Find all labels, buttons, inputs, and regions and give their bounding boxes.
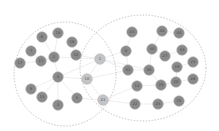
- node-16[interactable]: 16: [67, 37, 78, 48]
- node-label: 18: [56, 30, 61, 35]
- node-label: 14: [135, 83, 140, 88]
- node-label: 24: [130, 29, 135, 34]
- node-label: 15: [177, 98, 182, 103]
- edge: [87, 70, 128, 79]
- node-14[interactable]: 14: [132, 81, 143, 92]
- node-label: 30: [150, 46, 155, 51]
- node-23[interactable]: 23: [188, 57, 199, 68]
- node-7[interactable]: 7: [26, 46, 37, 57]
- nodes-layer: 6181671121217391345101212432348302733312…: [15, 26, 199, 111]
- edge: [58, 59, 100, 77]
- node-17[interactable]: 17: [15, 58, 26, 69]
- node-33[interactable]: 33: [177, 45, 188, 56]
- node-label: 28: [191, 76, 196, 81]
- node-label: 12: [74, 52, 79, 57]
- node-24[interactable]: 24: [127, 27, 138, 38]
- node-29[interactable]: 29: [156, 80, 167, 91]
- node-11[interactable]: 11: [36, 56, 47, 67]
- node-label: 19: [175, 64, 180, 69]
- node-6[interactable]: 6: [37, 32, 48, 43]
- network-diagram: 6181671121217391345101212432348302733312…: [0, 0, 219, 131]
- node-15[interactable]: 15: [174, 96, 185, 107]
- node-label: 25: [156, 101, 161, 106]
- node-32[interactable]: 32: [157, 26, 168, 37]
- node-8[interactable]: 8: [121, 46, 132, 57]
- node-label: 13: [40, 94, 45, 99]
- node-label: 29: [159, 82, 164, 87]
- node-3[interactable]: 3: [53, 72, 64, 83]
- node-21[interactable]: 21: [98, 95, 109, 106]
- node-30[interactable]: 30: [147, 44, 158, 55]
- node-5[interactable]: 5: [72, 93, 83, 104]
- node-31[interactable]: 31: [123, 65, 134, 76]
- node-28[interactable]: 28: [188, 74, 199, 85]
- node-10[interactable]: 10: [82, 74, 93, 85]
- node-label: 32: [160, 28, 165, 33]
- node-label: 22: [133, 101, 138, 106]
- node-label: 33: [180, 47, 185, 52]
- node-label: 20: [174, 79, 179, 84]
- graph-svg: 6181671121217391345101212432348302733312…: [0, 0, 219, 131]
- node-26[interactable]: 26: [144, 65, 155, 76]
- node-22[interactable]: 22: [130, 99, 141, 110]
- node-19[interactable]: 19: [172, 62, 183, 73]
- node-label: 16: [70, 39, 75, 44]
- node-4[interactable]: 4: [53, 100, 64, 111]
- node-1[interactable]: 1: [95, 54, 106, 65]
- node-label: 21: [101, 97, 106, 102]
- node-9[interactable]: 9: [26, 84, 37, 95]
- node-label: 26: [147, 67, 152, 72]
- node-18[interactable]: 18: [53, 28, 64, 39]
- node-2[interactable]: 2: [49, 52, 60, 63]
- right-cluster: [80, 15, 206, 121]
- node-label: 17: [18, 60, 23, 65]
- node-label: 11: [39, 58, 44, 63]
- node-13[interactable]: 13: [37, 92, 48, 103]
- node-27[interactable]: 27: [160, 51, 171, 62]
- node-label: 31: [126, 67, 131, 72]
- node-34[interactable]: 34: [174, 28, 185, 39]
- node-12[interactable]: 12: [71, 50, 82, 61]
- node-label: 27: [163, 53, 168, 58]
- node-25[interactable]: 25: [153, 99, 164, 110]
- node-label: 10: [85, 76, 90, 81]
- node-20[interactable]: 20: [171, 77, 182, 88]
- node-label: 34: [177, 30, 182, 35]
- node-label: 23: [191, 59, 196, 64]
